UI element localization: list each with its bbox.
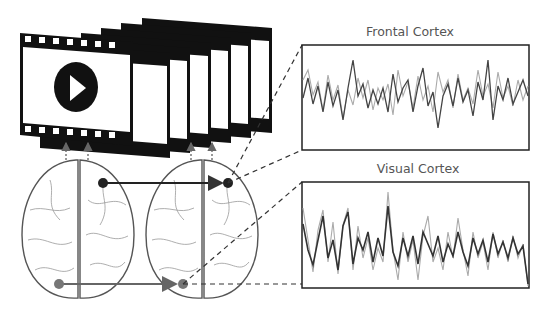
frontal-node-left xyxy=(98,178,108,188)
film-stack xyxy=(20,18,272,158)
play-button-icon xyxy=(54,62,98,112)
frontal-cortex-panel xyxy=(302,45,529,150)
frontal-cortex-title: Frontal Cortex xyxy=(366,24,454,39)
front-film-frame xyxy=(20,33,133,146)
visual-cortex-title: Visual Cortex xyxy=(377,161,460,176)
brain-right xyxy=(146,160,258,298)
diagram: Frontal Cortex Visual Cortex xyxy=(0,0,546,316)
visual-cortex-panel xyxy=(302,182,529,288)
visual-node-left xyxy=(54,279,64,289)
diagram-svg xyxy=(0,0,546,316)
brain-left xyxy=(22,160,134,298)
